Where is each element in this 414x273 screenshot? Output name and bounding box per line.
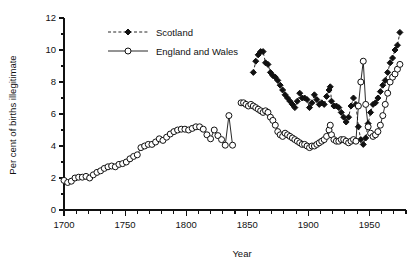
data-point-marker: [324, 93, 330, 99]
y-tick-label: 4: [51, 140, 56, 151]
data-point-marker: [211, 127, 217, 133]
legend-item-england-and-wales[interactable]: England and Wales: [108, 46, 238, 57]
data-point-marker: [272, 122, 278, 128]
data-point-marker: [385, 90, 391, 96]
legend-item-scotland[interactable]: Scotland: [108, 27, 193, 38]
x-tick-label: 1700: [53, 219, 74, 230]
data-point-marker: [226, 113, 232, 119]
data-point-marker: [377, 122, 383, 128]
data-point-marker: [134, 152, 140, 158]
y-tick-label: 12: [45, 12, 56, 23]
data-point-marker: [219, 137, 225, 143]
data-point-marker: [327, 122, 333, 128]
data-point-marker: [355, 103, 361, 109]
x-axis-tick-labels: 170017501800185019001950: [53, 219, 379, 230]
data-point-marker: [125, 29, 131, 35]
data-point-marker: [368, 109, 374, 115]
data-point-marker: [360, 58, 366, 64]
data-point-marker: [363, 101, 369, 107]
data-point-marker: [397, 29, 403, 35]
data-point-marker: [375, 129, 381, 135]
figure-chart: 024681012 170017501800185019001950 Per c…: [0, 0, 414, 273]
x-axis-ticks: [64, 210, 406, 216]
data-point-marker: [380, 113, 386, 119]
x-tick-label: 1950: [359, 219, 380, 230]
legend-label: England and Wales: [156, 46, 238, 57]
data-point-marker: [377, 89, 383, 95]
data-point-marker: [208, 136, 214, 142]
data-point-marker: [125, 48, 131, 54]
data-point-marker: [385, 69, 391, 75]
data-point-marker: [353, 138, 359, 144]
data-point-marker: [382, 101, 388, 107]
x-tick-label: 1900: [298, 219, 319, 230]
data-point-marker: [230, 142, 236, 148]
data-point-marker: [365, 124, 371, 130]
y-tick-label: 10: [45, 44, 56, 55]
y-axis-label: Per cent of births illegitimate: [7, 55, 18, 174]
y-tick-label: 2: [51, 172, 56, 183]
y-tick-label: 6: [51, 108, 56, 119]
y-tick-label: 0: [51, 204, 56, 215]
y-axis-tick-labels: 024681012: [45, 12, 56, 215]
x-tick-label: 1800: [176, 219, 197, 230]
data-point-marker: [294, 98, 300, 104]
data-point-marker: [222, 142, 228, 148]
legend-label: Scotland: [156, 27, 193, 38]
illegitimacy-line-chart: 024681012 170017501800185019001950 Per c…: [0, 0, 414, 273]
x-axis-group: 170017501800185019001950: [53, 210, 406, 230]
series-england-and-wales: [61, 58, 403, 185]
data-point-marker: [355, 124, 361, 130]
x-tick-label: 1750: [115, 219, 136, 230]
y-axis-group: 024681012: [45, 12, 64, 215]
data-point-marker: [253, 58, 259, 64]
data-point-marker: [250, 69, 256, 75]
data-point-marker: [350, 95, 356, 101]
x-axis-label: Year: [232, 248, 251, 259]
data-point-marker: [397, 61, 403, 67]
data-point-marker: [200, 126, 206, 132]
x-tick-label: 1850: [237, 219, 258, 230]
chart-legend: ScotlandEngland and Wales: [108, 27, 238, 57]
data-point-marker: [358, 79, 364, 85]
series-line: [64, 116, 233, 183]
y-tick-label: 8: [51, 76, 56, 87]
